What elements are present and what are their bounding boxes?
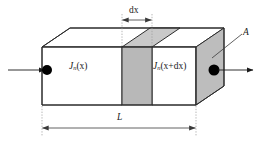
outlet-current-dot <box>209 65 220 76</box>
current-density-out-label: Jn(x+dx) <box>153 62 186 72</box>
slab-front-face <box>122 47 152 105</box>
cross-section-area-label: A <box>243 28 249 38</box>
bar-front-face-right <box>152 47 196 105</box>
inlet-current-dot <box>42 65 52 75</box>
current-density-in-argument: (x) <box>76 61 87 71</box>
slab-thickness-label: dx <box>129 6 139 16</box>
current-density-in-label: Jn(x) <box>69 62 88 72</box>
bar-length-label: L <box>117 113 122 123</box>
figure-root: Jn(x) Jn(x+dx) dx A L <box>0 0 264 146</box>
bar-front-face-left <box>42 47 122 105</box>
current-density-out-argument: (x+dx) <box>160 61 186 71</box>
diagram-canvas <box>0 0 264 146</box>
